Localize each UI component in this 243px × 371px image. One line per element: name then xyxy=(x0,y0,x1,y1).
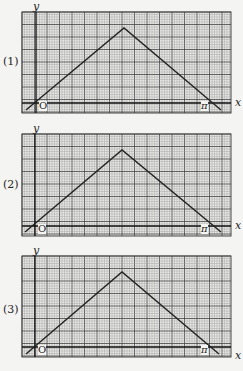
x-axis-label: x xyxy=(235,97,241,108)
graph-panel-2: (2) y x O π xyxy=(0,122,243,243)
x-axis-label: x xyxy=(235,220,241,231)
y-axis-label: y xyxy=(33,245,39,256)
pi-label: π xyxy=(201,224,208,234)
panel-number: (3) xyxy=(3,304,19,315)
panel-number: (1) xyxy=(3,56,19,67)
x-axis-label: x xyxy=(235,350,241,361)
graph-panel-3: (3) y x O π xyxy=(0,244,243,365)
origin-label: O xyxy=(38,345,46,355)
panel-number: (2) xyxy=(3,179,19,190)
graph-panel-1: (1) y x O π xyxy=(0,0,243,121)
pi-label: π xyxy=(201,345,208,355)
origin-label: O xyxy=(38,224,46,234)
pi-label: π xyxy=(201,101,208,111)
origin-label: O xyxy=(39,101,47,111)
y-axis-label: y xyxy=(33,1,39,12)
y-axis-label: y xyxy=(33,123,39,134)
